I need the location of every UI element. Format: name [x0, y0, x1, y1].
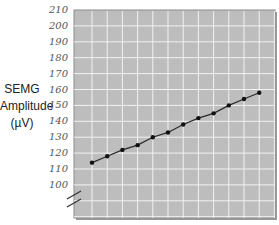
data-point	[90, 160, 94, 164]
data-point	[151, 135, 155, 139]
data-point	[120, 148, 124, 152]
data-point	[181, 122, 185, 126]
data-point	[166, 130, 170, 134]
data-point	[257, 90, 261, 94]
data-point	[227, 103, 231, 107]
data-point	[196, 116, 200, 120]
plot-area	[74, 10, 275, 218]
data-point	[135, 143, 139, 147]
data-point	[211, 111, 215, 115]
line-chart	[0, 0, 279, 225]
data-point	[242, 97, 246, 101]
data-point	[105, 154, 109, 158]
